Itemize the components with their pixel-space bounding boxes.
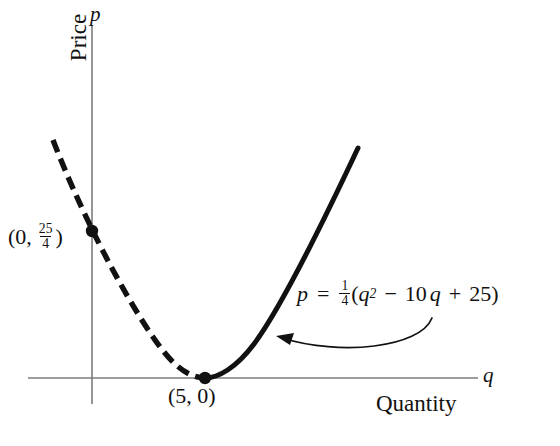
fraction-numerator: 1	[339, 279, 350, 293]
equation-plus: +	[449, 283, 461, 305]
curve-equation-label: p = 1 4 ( q 2 − 10 q + 25 )	[297, 279, 499, 308]
supply-curve-figure: p q Price Quantity ( 0, 25 4 ) (5, 0) p …	[0, 0, 560, 446]
equation-exponent: 2	[370, 287, 377, 301]
fraction-one-over-four: 1 4	[339, 279, 350, 308]
equation-coefficient-10: 10	[405, 283, 427, 305]
y-axis-title: Price	[67, 0, 90, 80]
fraction-25-over-4: 25 4	[37, 222, 55, 251]
point-marker-y-intercept	[86, 225, 98, 237]
equation-term-q: q	[359, 283, 370, 305]
x-coordinate: 0,	[15, 226, 32, 248]
annotation-arrow	[282, 318, 432, 348]
paren-open: (	[8, 226, 15, 248]
fraction-denominator: 4	[339, 293, 350, 308]
equation-close-paren: )	[491, 283, 498, 305]
x-axis-title: Quantity	[376, 392, 457, 415]
point-label-vertex: (5, 0)	[168, 385, 216, 407]
y-axis-variable-label: p	[90, 4, 101, 25]
equation-equals: =	[317, 283, 329, 305]
equation-minus: −	[384, 283, 396, 305]
equation-term-q-linear: q	[430, 283, 441, 305]
x-axis-variable-label: q	[483, 365, 494, 386]
paren-close: )	[55, 226, 62, 248]
equation-constant: 25	[469, 283, 491, 305]
equation-open-paren: (	[351, 283, 358, 305]
point-label-y-intercept: ( 0, 25 4 )	[8, 222, 63, 251]
annotation-arrowhead	[276, 333, 294, 345]
fraction-denominator: 4	[40, 236, 51, 251]
curve-solid-branch	[205, 148, 358, 378]
curve-dashed-branch	[53, 140, 205, 378]
fraction-numerator: 25	[37, 222, 55, 236]
equation-lhs: p	[297, 283, 308, 305]
